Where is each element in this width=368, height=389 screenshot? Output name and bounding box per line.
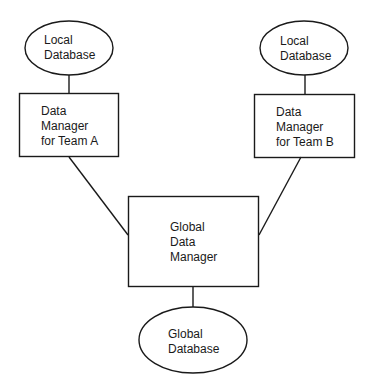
label-line: Database (168, 342, 219, 357)
label-line: Local (280, 34, 331, 49)
label-line: Data (276, 105, 334, 120)
label-line: Global (168, 327, 219, 342)
edge-dm-a-to-global-dm (69, 157, 128, 235)
label-line: for Team B (276, 135, 334, 150)
edge-dm-b-to-global-dm (259, 157, 301, 235)
label-line: Local (44, 33, 95, 48)
label-line: Manager (170, 250, 217, 265)
label-line: Database (44, 48, 95, 63)
label-line: Data (170, 235, 217, 250)
node-local-db-b-label: Local Database (280, 34, 331, 64)
label-line: Data (41, 104, 98, 119)
node-global-db-label: Global Database (168, 327, 219, 357)
label-line: for Team A (41, 134, 98, 149)
label-line: Database (280, 49, 331, 64)
node-global-dm-label: Global Data Manager (170, 220, 217, 265)
node-dm-team-b-label: Data Manager for Team B (276, 105, 334, 150)
node-dm-team-a-label: Data Manager for Team A (41, 104, 98, 149)
label-line: Global (170, 220, 217, 235)
label-line: Manager (276, 120, 334, 135)
node-local-db-a-label: Local Database (44, 33, 95, 63)
label-line: Manager (41, 119, 98, 134)
